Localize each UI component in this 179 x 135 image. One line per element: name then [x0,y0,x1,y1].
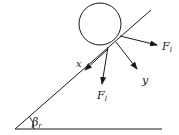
force-arrow-right [120,36,157,45]
y-axis-arrow [116,42,137,69]
body-circle [79,3,121,45]
force-label-down: Fl [96,89,107,103]
x-axis-label: x [76,58,82,69]
angle-label: βr [31,116,42,130]
force-label-right: Fl [161,40,172,54]
free-body-diagram: Fl Fl y x βr [0,0,179,135]
y-axis-label: y [141,74,149,87]
